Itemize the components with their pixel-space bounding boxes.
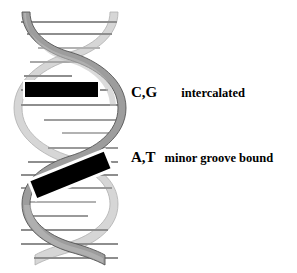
label-mode-intercalated: intercalated bbox=[181, 86, 245, 101]
ligand-intercalator bbox=[23, 80, 100, 99]
ligand-intercalator-body bbox=[25, 82, 98, 97]
label-bases-cg: C,G bbox=[131, 84, 157, 101]
dna-binding-figure: C,G intercalated A,T minor groove bound bbox=[0, 0, 297, 273]
label-mode-minor-groove-bound: minor groove bound bbox=[165, 151, 274, 166]
label-row-at: A,T minor groove bound bbox=[131, 149, 273, 166]
dna-double-helix bbox=[0, 0, 140, 273]
label-bases-at: A,T bbox=[131, 149, 156, 166]
label-row-cg: C,G intercalated bbox=[131, 84, 245, 101]
